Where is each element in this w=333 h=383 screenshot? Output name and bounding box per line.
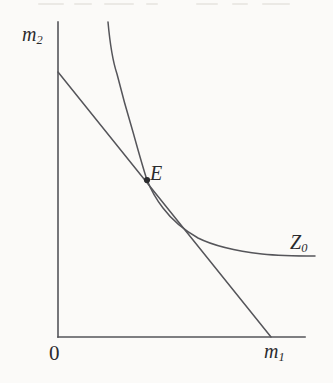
x-axis-label-base: m bbox=[264, 340, 278, 362]
x-axis-label-subscript: 1 bbox=[278, 350, 284, 364]
figure-container: m2 m1 0 E Z0 bbox=[0, 0, 333, 383]
y-axis-label-base: m bbox=[22, 23, 36, 45]
y-axis-label: m2 bbox=[22, 24, 43, 46]
indifference-curve bbox=[108, 22, 315, 256]
y-axis-label-subscript: 2 bbox=[36, 33, 42, 47]
equilibrium-point-label: E bbox=[150, 163, 162, 183]
indifference-curve-label: Z0 bbox=[290, 232, 307, 254]
scan-artifact-band bbox=[38, 3, 290, 5]
budget-line bbox=[58, 72, 271, 337]
indifference-curve-label-base: Z bbox=[290, 231, 301, 253]
origin-label: 0 bbox=[49, 343, 60, 364]
indifference-curve-plot bbox=[0, 0, 333, 383]
x-axis-label: m1 bbox=[264, 341, 285, 363]
indifference-curve-label-subscript: 0 bbox=[301, 241, 307, 255]
